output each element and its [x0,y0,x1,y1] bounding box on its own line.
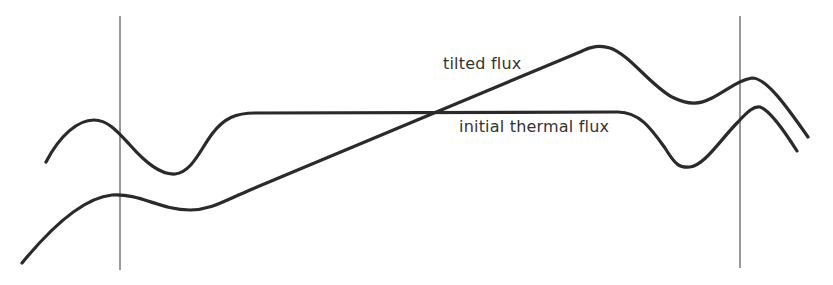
tilted-flux-label: tilted flux [443,54,521,73]
initial-thermal-flux-label: initial thermal flux [459,117,609,136]
flux-diagram [0,0,833,285]
